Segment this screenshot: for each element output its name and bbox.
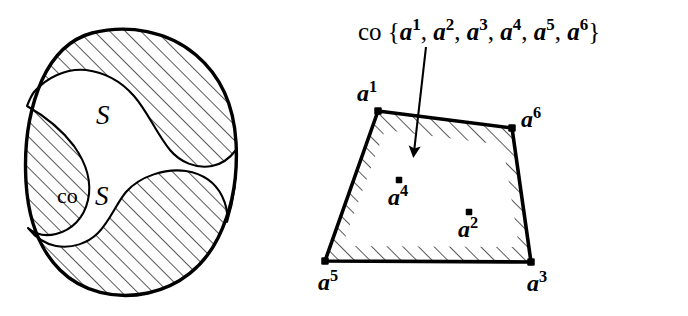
hull-caption-text: co {a1, a2, a3, a4, a5, a6}	[358, 15, 600, 45]
co-s-set-label: S	[95, 181, 109, 211]
quad-hatch-band	[300, 0, 688, 316]
left-hatch-band	[0, 0, 344, 316]
figure-canvas: S co S co {a1, a2, a3, a4, a5, a6} a1a6a…	[0, 0, 688, 316]
right-panel-group: co {a1, a2, a3, a4, a5, a6} a1a6a3a5a4a2	[300, 0, 688, 316]
point-marker-a5	[321, 257, 329, 265]
left-panel-group: S co S	[0, 0, 344, 316]
co-s-prefix-label: co	[57, 183, 78, 208]
point-marker-a1	[374, 107, 382, 115]
hull-caption: co {a1, a2, a3, a4, a5, a6}	[358, 15, 600, 45]
point-marker-a3	[527, 258, 535, 266]
set-s-label: S	[96, 100, 110, 130]
figure-root: S co S co {a1, a2, a3, a4, a5, a6} a1a6a…	[0, 0, 688, 316]
point-marker-a6	[508, 124, 516, 132]
